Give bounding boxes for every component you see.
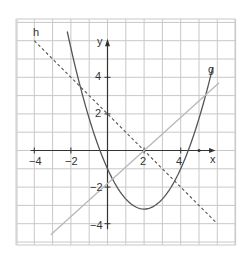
tick-label-x-neg2: −2	[65, 155, 78, 167]
tick-label-y-4: 4	[95, 70, 101, 82]
tick-label-y-neg2: −2	[90, 181, 103, 193]
tick-label-y-2: 2	[95, 107, 101, 119]
function-graph: h g x y −4 −2 2 4 4 2 −2 −4	[0, 0, 244, 257]
y-axis-label: y	[97, 35, 103, 47]
tick-label-x-neg4: −4	[29, 155, 42, 167]
label-g: g	[208, 63, 214, 75]
x-axis-label: x	[210, 153, 216, 165]
label-h: h	[33, 26, 39, 38]
tick-label-x-4: 4	[176, 155, 182, 167]
tick-label-y-neg4: −4	[90, 219, 103, 231]
curves	[34, 32, 219, 235]
axes	[31, 39, 216, 229]
tick-label-x-2: 2	[140, 155, 146, 167]
y-axis-arrow-icon	[105, 39, 110, 46]
